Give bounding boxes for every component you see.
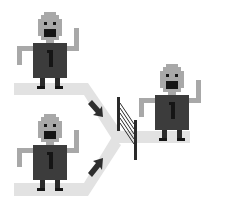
robot-icon <box>17 12 79 89</box>
merge-diagram <box>0 0 226 200</box>
robot-icon <box>17 114 79 191</box>
arrow-icon <box>88 100 103 177</box>
gate-icon <box>117 97 137 160</box>
robot-icon <box>139 64 201 141</box>
